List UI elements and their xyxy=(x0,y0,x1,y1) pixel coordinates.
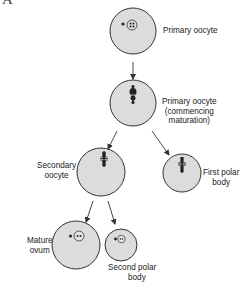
arrow-to-secondary-oocyte xyxy=(108,131,117,149)
second-polar-body-cell xyxy=(105,229,137,261)
arrow-to-first-polar-body xyxy=(152,131,169,155)
centrosome-icon xyxy=(121,22,124,25)
centrosome-icon xyxy=(114,238,117,241)
label-commencing-maturation: Primary oocyte (commencing maturation) xyxy=(162,97,217,126)
first-polar-body-cell xyxy=(163,154,201,192)
secondary-oocyte-cell xyxy=(77,148,125,196)
centrosome-icon xyxy=(69,235,72,238)
primary-oocyte-cell xyxy=(110,8,156,54)
nucleus-icon xyxy=(74,231,84,241)
commencing-maturation-cell xyxy=(110,80,156,126)
nucleus-icon xyxy=(118,235,126,243)
label-second-polar-body: Second polar body xyxy=(108,263,156,282)
arrow-to-second-polar-body xyxy=(108,201,115,224)
arrow-to-mature-ovum xyxy=(86,201,93,222)
nucleus-icon xyxy=(127,20,137,30)
label-first-polar-body: First polar body xyxy=(203,168,239,187)
label-primary-oocyte: Primary oocyte xyxy=(163,26,218,36)
label-secondary-oocyte: Secondary oocyte xyxy=(37,161,76,180)
label-mature-ovum: Mature ovum xyxy=(27,236,52,255)
mature-ovum-cell xyxy=(52,221,100,269)
